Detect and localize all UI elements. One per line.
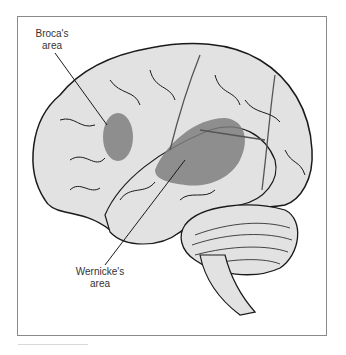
brain-illustration (0, 0, 346, 355)
broca-label: Broca's area (30, 28, 74, 52)
broca-label-line2: area (30, 40, 74, 52)
wernicke-label-line2: area (70, 278, 130, 290)
wernicke-label: Wernicke's area (70, 266, 130, 290)
cerebellum (181, 205, 298, 275)
broca-area-highlight (103, 113, 133, 161)
wernicke-label-line1: Wernicke's (70, 266, 130, 278)
caption-rule (18, 344, 88, 345)
broca-label-line1: Broca's (30, 28, 74, 40)
